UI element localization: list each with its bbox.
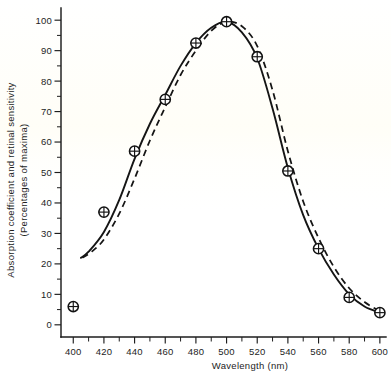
data-point-marker bbox=[160, 94, 170, 104]
y-tick-label: 10 bbox=[41, 289, 52, 300]
data-point-marker bbox=[68, 301, 78, 311]
x-tick-label: 580 bbox=[341, 346, 357, 357]
x-axis-ticks: 400420440460480500520540560580600 bbox=[65, 337, 388, 357]
x-tick-label: 520 bbox=[249, 346, 265, 357]
x-tick-label: 600 bbox=[372, 346, 388, 357]
y-tick-label: 70 bbox=[41, 106, 52, 117]
absorption-coefficient-curve bbox=[81, 22, 380, 313]
data-point-marker bbox=[191, 38, 201, 48]
absorption-spectrum-chart: 0102030405060708090100 40042044046048050… bbox=[0, 0, 391, 382]
data-point-marker bbox=[283, 166, 293, 176]
y-tick-label: 60 bbox=[41, 136, 52, 147]
y-tick-label: 40 bbox=[41, 197, 52, 208]
data-point-marker bbox=[375, 308, 385, 318]
data-point-marker bbox=[252, 52, 262, 62]
y-tick-label: 30 bbox=[41, 228, 52, 239]
x-tick-label: 540 bbox=[280, 346, 296, 357]
y-tick-label: 80 bbox=[41, 76, 52, 87]
y-axis-title-line1: Absorption coefficient and retinal sensi… bbox=[5, 82, 16, 277]
y-tick-label: 50 bbox=[41, 167, 52, 178]
retinal-sensitivity-curve bbox=[82, 22, 379, 312]
x-tick-label: 420 bbox=[96, 346, 112, 357]
data-point-marker bbox=[129, 146, 139, 156]
x-tick-label: 440 bbox=[126, 346, 142, 357]
data-point-marker bbox=[221, 17, 231, 27]
y-tick-label: 90 bbox=[41, 45, 52, 56]
y-axis-title-line2: (Percentages of maxima) bbox=[18, 123, 29, 236]
data-point-marker bbox=[313, 244, 323, 254]
x-tick-label: 400 bbox=[65, 346, 81, 357]
x-axis-title: Wavelength (nm) bbox=[212, 360, 288, 371]
data-point-marker bbox=[99, 207, 109, 217]
x-tick-label: 560 bbox=[310, 346, 326, 357]
y-tick-label: 20 bbox=[41, 258, 52, 269]
x-tick-label: 500 bbox=[218, 346, 234, 357]
y-tick-label: 0 bbox=[47, 319, 52, 330]
data-point-marker bbox=[344, 292, 354, 302]
x-tick-label: 480 bbox=[188, 346, 204, 357]
y-axis-ticks: 0102030405060708090100 bbox=[36, 15, 61, 331]
axes bbox=[61, 8, 386, 337]
y-tick-label: 100 bbox=[36, 15, 52, 26]
x-tick-label: 460 bbox=[157, 346, 173, 357]
